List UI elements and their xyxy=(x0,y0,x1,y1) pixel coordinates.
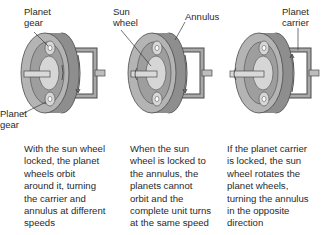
label-planet-gear-bottom: Planet gear xyxy=(0,108,27,130)
label-sun-wheel: Sun wheel xyxy=(113,6,138,28)
panel-sun-locked: Planet gear Planet gear xyxy=(0,0,107,140)
caption-carrier-locked: If the planet carrier is locked, the sun… xyxy=(227,143,322,230)
panel-carrier-locked: Planet carrier xyxy=(214,0,321,140)
caption-sun-locked-to-annulus: When the sun wheel is locked to the annu… xyxy=(130,143,230,230)
caption-sun-locked: With the sun wheel locked, the planet wh… xyxy=(24,143,124,230)
label-planet-carrier: Planet carrier xyxy=(282,6,309,28)
label-planet-gear-top: Planet gear xyxy=(24,6,51,28)
panel-sun-locked-to-annulus: Sun wheel Annulus xyxy=(107,0,214,140)
